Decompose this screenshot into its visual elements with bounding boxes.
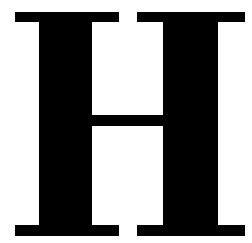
left-stem (39, 20, 92, 228)
bottom-left-serif (15, 225, 119, 236)
crossbar (90, 115, 165, 126)
bottom-right-serif (137, 225, 245, 236)
right-stem (163, 20, 218, 228)
letter-h-glyph: H (0, 0, 252, 243)
